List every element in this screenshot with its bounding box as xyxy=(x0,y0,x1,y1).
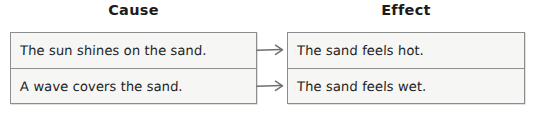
column-heading-cause: Cause xyxy=(10,2,257,18)
table-row: The sun shines on the sand. xyxy=(11,33,256,69)
arrow-right-icon xyxy=(256,43,289,57)
cause-effect-diagram: Cause Effect The sun shines on the sand.… xyxy=(0,0,537,120)
effect-table: The sand feels hot. The sand feels wet. xyxy=(287,32,525,104)
cause-cell-1: The sun shines on the sand. xyxy=(11,44,207,57)
effect-cell-2: The sand feels wet. xyxy=(288,80,427,93)
cause-table: The sun shines on the sand. A wave cover… xyxy=(10,32,257,104)
column-heading-effect: Effect xyxy=(287,2,525,18)
cause-cell-2: A wave covers the sand. xyxy=(11,80,183,93)
table-row: The sand feels hot. xyxy=(288,33,524,69)
effect-cell-1: The sand feels hot. xyxy=(288,44,424,57)
arrow-right-icon xyxy=(256,79,289,93)
table-row: The sand feels wet. xyxy=(288,69,524,105)
table-row: A wave covers the sand. xyxy=(11,69,256,105)
